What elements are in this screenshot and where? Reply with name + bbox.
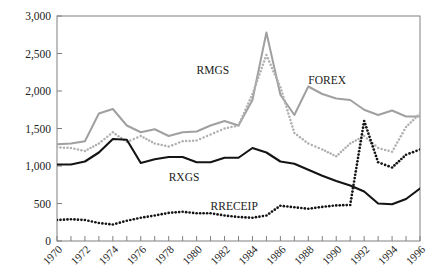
x-tick-label: 1996 [403, 243, 427, 267]
y-tick-label: 0 [45, 235, 51, 247]
series-dot-rmgs [59, 146, 62, 149]
series-dot-rmgs [117, 135, 120, 138]
series-dot-rmgs [280, 89, 283, 92]
series-dot-rreceip [356, 160, 359, 163]
series-dot-rmgs [329, 152, 332, 155]
series-dot-rmgs [192, 139, 195, 142]
series-dot-rreceip [349, 200, 352, 203]
series-dot-rmgs [384, 149, 387, 152]
series-dot-rmgs [181, 140, 184, 143]
series-dot-rmgs [80, 149, 83, 152]
series-dot-rreceip [363, 120, 366, 123]
series-dot-rmgs [234, 125, 237, 128]
series-dot-rmgs [304, 140, 307, 143]
x-tick-label: 1990 [320, 243, 344, 267]
series-dot-rmgs [307, 142, 310, 145]
series-dot-rmgs [255, 83, 258, 86]
series-dot-rmgs [299, 136, 302, 139]
x-tick-label: 1992 [348, 243, 372, 267]
series-dot-rreceip [171, 211, 174, 214]
series-dot-rmgs [164, 145, 167, 148]
series-dot-rmgs [393, 147, 396, 150]
series-dot-rmgs [63, 146, 65, 149]
series-dot-rmgs [289, 119, 292, 122]
series-dot-rreceip [338, 204, 341, 207]
series-dot-rreceip [160, 213, 163, 216]
series-dot-rmgs [174, 143, 177, 146]
series-dot-rreceip [125, 219, 128, 222]
series-dot-rreceip [354, 173, 357, 176]
x-tick-label: 1986 [264, 243, 288, 267]
series-dot-rreceip [178, 211, 181, 214]
series-dot-rmgs [284, 102, 287, 105]
series-dot-rmgs [405, 126, 408, 129]
series-dot-rmgs [419, 112, 422, 115]
series-dot-rreceip [353, 177, 356, 180]
series-dot-rreceip [80, 218, 83, 221]
series-dot-rmgs [283, 99, 286, 102]
series-dot-rreceip [342, 204, 345, 207]
series-dot-rmgs [286, 109, 289, 112]
series-dot-rreceip [405, 153, 408, 156]
series-dot-rreceip [157, 213, 160, 216]
x-tick-label: 1974 [96, 243, 120, 267]
series-dot-rmgs [145, 138, 148, 141]
series-dot-rmgs [100, 140, 103, 143]
x-tick-label: 1984 [236, 243, 260, 267]
series-dot-rreceip [352, 183, 355, 186]
series-dot-rmgs [355, 139, 358, 142]
series-dot-rmgs [377, 147, 380, 150]
series-dot-rmgs [261, 67, 264, 70]
series-dot-rreceip [303, 207, 306, 210]
x-tick-label: 1972 [68, 243, 92, 267]
series-dot-rmgs [227, 127, 230, 130]
series-dot-rmgs [301, 138, 304, 141]
series-dot-rreceip [220, 214, 223, 217]
series-dot-rreceip [216, 213, 219, 216]
series-dot-rreceip [380, 162, 383, 165]
series-dot-rreceip [132, 218, 135, 221]
y-tick-label: 3,000 [25, 10, 51, 23]
series-label-rreceip: RRECEIP [211, 200, 258, 212]
series-dot-rmgs [248, 99, 251, 102]
series-dot-rreceip [112, 223, 115, 226]
series-dot-rmgs [70, 147, 73, 150]
series-dot-rmgs [188, 140, 191, 143]
series-dot-rreceip [317, 206, 320, 209]
series-dot-rreceip [293, 206, 296, 209]
series-dot-rreceip [328, 205, 331, 208]
series-dot-rreceip [361, 133, 364, 136]
series-dot-rreceip [358, 150, 361, 153]
series-dot-rreceip [335, 204, 338, 207]
series-dot-rmgs [213, 132, 216, 135]
series-dot-rmgs [114, 133, 117, 136]
series-dot-rreceip [276, 206, 279, 209]
series-dot-rreceip [354, 170, 357, 173]
series-dot-rreceip [56, 219, 59, 222]
series-dot-rreceip [286, 205, 289, 208]
series-dot-rmgs [396, 141, 399, 144]
series-dot-rmgs [84, 150, 87, 153]
series-dot-rreceip [213, 212, 216, 215]
series-dot-rmgs [269, 63, 272, 66]
series-dot-rmgs [250, 96, 253, 99]
series-dot-rmgs [271, 67, 274, 70]
chart-container: 05001,0001,5002,0002,5003,000 1970197219… [0, 0, 432, 275]
series-dot-rreceip [402, 156, 405, 159]
series-dot-rreceip [237, 216, 240, 219]
series-dot-rreceip [362, 126, 365, 129]
series-dot-rmgs [241, 115, 244, 118]
series-dot-rmgs [95, 144, 98, 147]
series-dot-rreceip [143, 216, 146, 219]
series-dot-rreceip [377, 161, 380, 164]
series-dot-rreceip [307, 207, 310, 210]
series-dot-rmgs [252, 90, 255, 93]
series-dot-rmgs [363, 135, 366, 138]
series-dot-rmgs [291, 125, 294, 128]
series-dot-rmgs [257, 77, 260, 80]
series-dot-rmgs [209, 133, 212, 136]
series-dot-rmgs [282, 96, 285, 99]
series-dot-rmgs [288, 115, 291, 118]
series-dot-rreceip [262, 215, 265, 218]
series-dot-rmgs [258, 73, 261, 76]
